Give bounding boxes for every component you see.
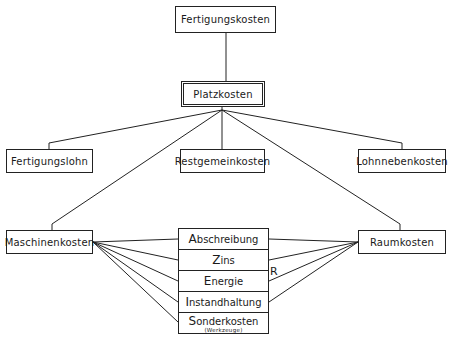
lohnnebenkosten-box: Lohnnebenkosten <box>358 149 446 173</box>
component-label: bschreibung <box>197 234 259 245</box>
component-note: (Werkzeuge) <box>204 327 242 333</box>
fertigungslohn-box: Fertigungslohn <box>6 149 93 173</box>
cost-components-stack: Abschreibung Zins Energie Instandhaltung… <box>178 228 269 334</box>
component-label: onderkosten <box>196 316 258 327</box>
component-initial: A <box>189 232 197 246</box>
component-label: ins <box>220 255 234 266</box>
r-label: R <box>270 265 278 278</box>
restgemeinkosten-label: Restgemeinkosten <box>175 156 271 167</box>
fertigungskosten-box: Fertigungskosten <box>175 6 276 33</box>
component-energie: Energie <box>179 271 268 292</box>
maschinenkosten-label: Maschinenkosten <box>5 237 95 248</box>
maschinenkosten-box: Maschinenkosten <box>6 230 93 254</box>
lohnnebenkosten-label: Lohnnebenkosten <box>356 156 448 167</box>
fertigungslohn-label: Fertigungslohn <box>11 156 88 167</box>
raumkosten-label: Raumkosten <box>370 237 434 248</box>
component-sonderkosten: Sonderkosten (Werkzeuge) <box>179 313 268 335</box>
platzkosten-box: Platzkosten <box>181 81 265 107</box>
component-label: nergie <box>211 276 243 287</box>
fertigungskosten-label: Fertigungskosten <box>181 14 270 25</box>
platzkosten-label: Platzkosten <box>193 89 252 100</box>
restgemeinkosten-box: Restgemeinkosten <box>180 149 265 173</box>
component-abschreibung: Abschreibung <box>179 229 268 250</box>
component-zins: Zins <box>179 250 268 271</box>
component-instandhaltung: Instandhaltung <box>179 292 268 313</box>
raumkosten-box: Raumkosten <box>358 230 446 254</box>
component-label: nstandhaltung <box>189 297 261 308</box>
